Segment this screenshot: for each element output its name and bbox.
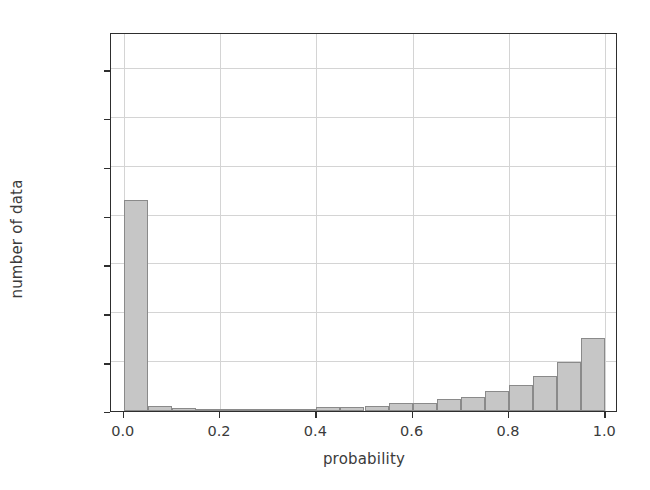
histogram-bar bbox=[292, 409, 316, 411]
y-tick-mark bbox=[104, 168, 110, 169]
gridline-horizontal bbox=[111, 361, 616, 362]
histogram-bar bbox=[533, 376, 557, 411]
gridline-vertical bbox=[220, 34, 221, 411]
histogram-bar bbox=[581, 338, 605, 411]
x-tick-mark bbox=[604, 412, 605, 418]
gridline-horizontal bbox=[111, 215, 616, 216]
histogram-bar bbox=[413, 403, 437, 411]
x-axis-label: probability bbox=[110, 450, 618, 468]
histogram-bar bbox=[509, 385, 533, 411]
y-tick-mark bbox=[104, 265, 110, 266]
x-tick-label: 0.2 bbox=[184, 423, 254, 439]
gridline-vertical bbox=[316, 34, 317, 411]
y-tick-mark bbox=[104, 119, 110, 120]
y-tick-mark bbox=[104, 314, 110, 315]
gridline-vertical bbox=[509, 34, 510, 411]
x-tick-label: 0.0 bbox=[88, 423, 158, 439]
gridline-horizontal bbox=[111, 312, 616, 313]
histogram-bar bbox=[485, 391, 509, 411]
histogram-bar bbox=[365, 406, 389, 411]
histogram-bar bbox=[172, 408, 196, 411]
x-tick-label: 1.0 bbox=[569, 423, 639, 439]
histogram-bar bbox=[124, 200, 148, 411]
x-tick-label: 0.6 bbox=[377, 423, 447, 439]
histogram-bar bbox=[461, 397, 485, 411]
x-tick-mark bbox=[219, 412, 220, 418]
histogram-bar bbox=[148, 406, 172, 411]
y-axis-label: number of data bbox=[0, 33, 34, 445]
histogram-bar bbox=[389, 403, 413, 411]
histogram-bar bbox=[220, 409, 244, 411]
x-tick-label: 0.4 bbox=[280, 423, 350, 439]
y-tick-mark bbox=[104, 70, 110, 71]
gridline-horizontal bbox=[111, 117, 616, 118]
histogram-bar bbox=[316, 407, 340, 411]
x-tick-mark bbox=[315, 412, 316, 418]
histogram-bar bbox=[557, 362, 581, 411]
x-tick-mark bbox=[123, 412, 124, 418]
histogram-bar bbox=[268, 409, 292, 411]
gridline-vertical bbox=[605, 34, 606, 411]
plot-area bbox=[110, 33, 617, 412]
histogram-bar bbox=[244, 409, 268, 411]
gridline-horizontal bbox=[111, 68, 616, 69]
histogram-bar bbox=[437, 399, 461, 411]
y-tick-mark bbox=[104, 412, 110, 413]
histogram-bar bbox=[196, 409, 220, 411]
y-tick-mark bbox=[104, 217, 110, 218]
x-tick-label: 0.8 bbox=[473, 423, 543, 439]
gridline-vertical bbox=[413, 34, 414, 411]
x-tick-mark bbox=[412, 412, 413, 418]
y-tick-mark bbox=[104, 363, 110, 364]
histogram-bar bbox=[340, 407, 364, 411]
gridline-horizontal bbox=[111, 263, 616, 264]
x-tick-mark bbox=[508, 412, 509, 418]
histogram-figure: number of data 0250050007500100001250015… bbox=[0, 0, 650, 490]
gridline-horizontal bbox=[111, 166, 616, 167]
